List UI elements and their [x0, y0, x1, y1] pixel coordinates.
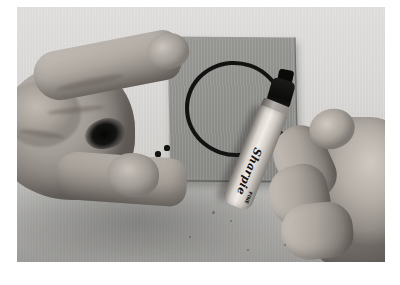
screenshot-root: Sharpie FINE — [0, 0, 400, 285]
right-hand — [267, 103, 385, 262]
photograph: Sharpie FINE — [17, 7, 385, 262]
surface-speck — [212, 211, 215, 214]
left-hand — [17, 35, 197, 217]
surface-speck — [189, 236, 191, 238]
